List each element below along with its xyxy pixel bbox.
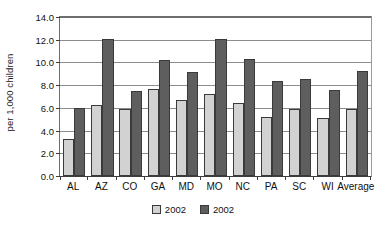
x-axis-tick-mark (144, 176, 145, 180)
bar-co-series-2 (131, 91, 142, 176)
x-axis-tick-label: PA (265, 181, 278, 192)
y-axis-tick-label: 0.0 (41, 171, 54, 182)
bar-wi-series-1 (317, 118, 328, 176)
x-axis-tick-label: CO (122, 181, 137, 192)
x-axis-tick-label: SC (292, 181, 306, 192)
bar-group (230, 17, 258, 176)
y-axis-tick-label: 6.0 (41, 103, 54, 114)
y-axis-title-text: per 1,000 children (5, 54, 16, 132)
bar-al-series-1 (63, 139, 74, 176)
bar-average-series-1 (346, 109, 357, 176)
bar-ga-series-2 (159, 60, 170, 176)
legend-entry-2[interactable]: 2002 (200, 204, 234, 215)
x-axis-tick-mark (370, 176, 371, 180)
bar-group (173, 17, 201, 176)
bar-group (60, 17, 88, 176)
y-axis-tick-label: 12.0 (36, 35, 55, 46)
legend-swatch-icon (200, 205, 209, 214)
bar-average-series-2 (357, 71, 368, 176)
bar-md-series-1 (176, 100, 187, 176)
x-axis-tick-label: Average (337, 181, 374, 192)
x-axis-tick-mark (60, 176, 61, 180)
y-axis-tick-label: 2.0 (41, 148, 54, 159)
x-axis-tick-mark (342, 176, 343, 180)
y-axis-tick-label: 4.0 (41, 126, 54, 137)
bar-md-series-2 (187, 72, 198, 176)
bar-group (343, 17, 371, 176)
bar-group (314, 17, 342, 176)
bar-nc-series-2 (244, 59, 255, 176)
x-axis-tick-mark (116, 176, 117, 180)
bar-al-series-2 (74, 108, 85, 176)
x-axis-tick-label: MD (178, 181, 194, 192)
bars-layer (60, 17, 371, 176)
y-axis-tick-label: 10.0 (36, 57, 55, 68)
bar-nc-series-1 (233, 103, 244, 176)
bar-group (258, 17, 286, 176)
bar-sc-series-2 (300, 79, 311, 176)
legend-label: 2002 (165, 204, 186, 215)
x-axis-tick-label: WI (321, 181, 333, 192)
x-axis-tick-mark (313, 176, 314, 180)
bar-az-series-2 (102, 39, 113, 176)
bar-group (201, 17, 229, 176)
x-axis-tick-mark (229, 176, 230, 180)
x-axis-tick-label: AL (67, 181, 79, 192)
bar-az-series-1 (91, 105, 102, 176)
x-axis-tick-mark (87, 176, 88, 180)
bar-sc-series-1 (289, 109, 300, 176)
plot-area: 0.02.04.06.08.010.012.014.0 (59, 16, 372, 177)
bar-co-series-1 (119, 109, 130, 176)
y-axis-tick-label: 14.0 (36, 12, 55, 23)
legend-swatch-icon (152, 205, 161, 214)
bar-pa-series-1 (261, 117, 272, 176)
x-axis-tick-mark (285, 176, 286, 180)
bar-group (117, 17, 145, 176)
x-axis-tick-label: NC (236, 181, 250, 192)
bar-mo-series-2 (215, 39, 226, 176)
x-axis-tick-label: GA (151, 181, 165, 192)
legend-label: 2002 (213, 204, 234, 215)
bar-pa-series-2 (272, 81, 283, 176)
x-axis-tick-mark (172, 176, 173, 180)
x-axis-tick-labels: ALAZCOGAMDMONCPASCWIAverage (59, 181, 372, 197)
x-axis-tick-label: AZ (95, 181, 108, 192)
bar-ga-series-1 (148, 89, 159, 176)
chart-legend: 20022002 (0, 204, 386, 215)
bar-wi-series-2 (329, 90, 340, 176)
bar-mo-series-1 (204, 94, 215, 176)
x-axis-tick-mark (257, 176, 258, 180)
y-axis-title: per 1,000 children (0, 0, 20, 185)
legend-entry-1[interactable]: 2002 (152, 204, 186, 215)
bar-group (145, 17, 173, 176)
y-axis-tick-label: 8.0 (41, 80, 54, 91)
x-axis-tick-label: MO (206, 181, 222, 192)
bar-chart-figure: per 1,000 children 0.02.04.06.08.010.012… (0, 0, 386, 237)
x-axis-tick-mark (200, 176, 201, 180)
bar-group (286, 17, 314, 176)
bar-group (88, 17, 116, 176)
